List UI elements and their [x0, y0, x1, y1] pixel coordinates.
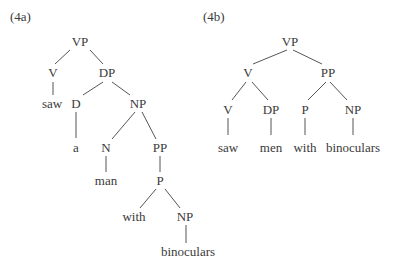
example-label-4a: (4a)	[10, 10, 31, 24]
tree-node-a_man: man	[95, 174, 117, 188]
tree-node-b_v2: V	[223, 103, 232, 117]
tree-node-a_a: a	[73, 141, 79, 155]
tree-branch	[308, 82, 326, 100]
tree-branch	[253, 50, 287, 64]
tree-branch	[55, 50, 70, 64]
tree-node-a_bin: binoculars	[161, 245, 215, 259]
tree-node-a_np1: NP	[130, 97, 147, 111]
tree-node-b_pp: PP	[321, 66, 335, 80]
tree-node-b_bin: binoculars	[326, 141, 380, 155]
tree-node-a_pp: PP	[153, 141, 167, 155]
tree-branch	[140, 189, 156, 208]
tree-node-b_dp: DP	[263, 103, 280, 117]
example-label-4b: (4b)	[203, 10, 225, 24]
tree-node-b_np: NP	[345, 103, 362, 117]
tree-branch	[83, 82, 103, 95]
tree-node-a_v: V	[48, 66, 57, 80]
tree-node-a_saw: saw	[42, 97, 62, 111]
tree-node-a_vp: VP	[72, 35, 89, 49]
tree-node-a_n: N	[101, 141, 110, 155]
tree-node-a_with: with	[122, 210, 145, 224]
tree-edges	[0, 0, 399, 270]
tree-node-a_dp: DP	[99, 66, 116, 80]
tree-branch	[142, 112, 156, 139]
tree-node-b_p: P	[301, 103, 308, 117]
tree-node-b_with: with	[293, 141, 316, 155]
tree-branch	[90, 50, 103, 64]
tree-branch	[252, 82, 268, 100]
tree-node-a_d: D	[71, 97, 80, 111]
tree-branch	[165, 189, 180, 208]
tree-node-b_v1: V	[243, 66, 252, 80]
tree-node-b_saw: saw	[218, 141, 238, 155]
tree-branch	[112, 112, 135, 139]
tree-node-b_men: men	[260, 141, 282, 155]
tree-node-a_p: P	[156, 174, 163, 188]
tree-node-a_np2: NP	[177, 210, 194, 224]
tree-node-b_vp: VP	[282, 35, 299, 49]
tree-branch	[232, 82, 246, 100]
tree-branch	[112, 82, 130, 95]
tree-branch	[293, 50, 322, 64]
tree-branch	[330, 82, 347, 100]
